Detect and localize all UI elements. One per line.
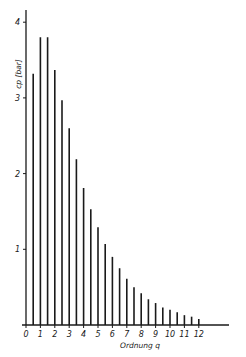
bars <box>33 37 199 325</box>
x-tick-label: 8 <box>139 330 144 339</box>
x-tick-label: 5 <box>95 330 100 339</box>
x-tick-label: 0 <box>23 330 28 339</box>
y-tick-label: 4 <box>15 18 20 27</box>
x-ticks: 0123456789101112 <box>23 325 203 339</box>
y-tick-label: 2 <box>15 170 20 179</box>
y-tick-label: 3 <box>15 94 20 103</box>
x-tick-label: 12 <box>194 330 204 339</box>
x-tick-label: 10 <box>165 330 175 339</box>
x-tick-label: 3 <box>67 330 72 339</box>
y-ticks: 1234 <box>15 18 26 254</box>
x-tick-label: 11 <box>179 330 189 339</box>
y-axis-title: cp [bar] <box>14 59 23 89</box>
x-tick-label: 2 <box>52 330 57 339</box>
x-tick-label: 1 <box>38 330 43 339</box>
x-tick-label: 6 <box>110 330 115 339</box>
x-tick-label: 9 <box>153 330 158 339</box>
spectrum-chart: 1234 0123456789101112 cp [bar] Ordnung q <box>0 0 246 357</box>
x-tick-label: 7 <box>124 330 130 339</box>
y-tick-label: 1 <box>15 245 20 254</box>
x-axis-title: Ordnung q <box>120 341 160 350</box>
x-tick-label: 4 <box>81 330 86 339</box>
